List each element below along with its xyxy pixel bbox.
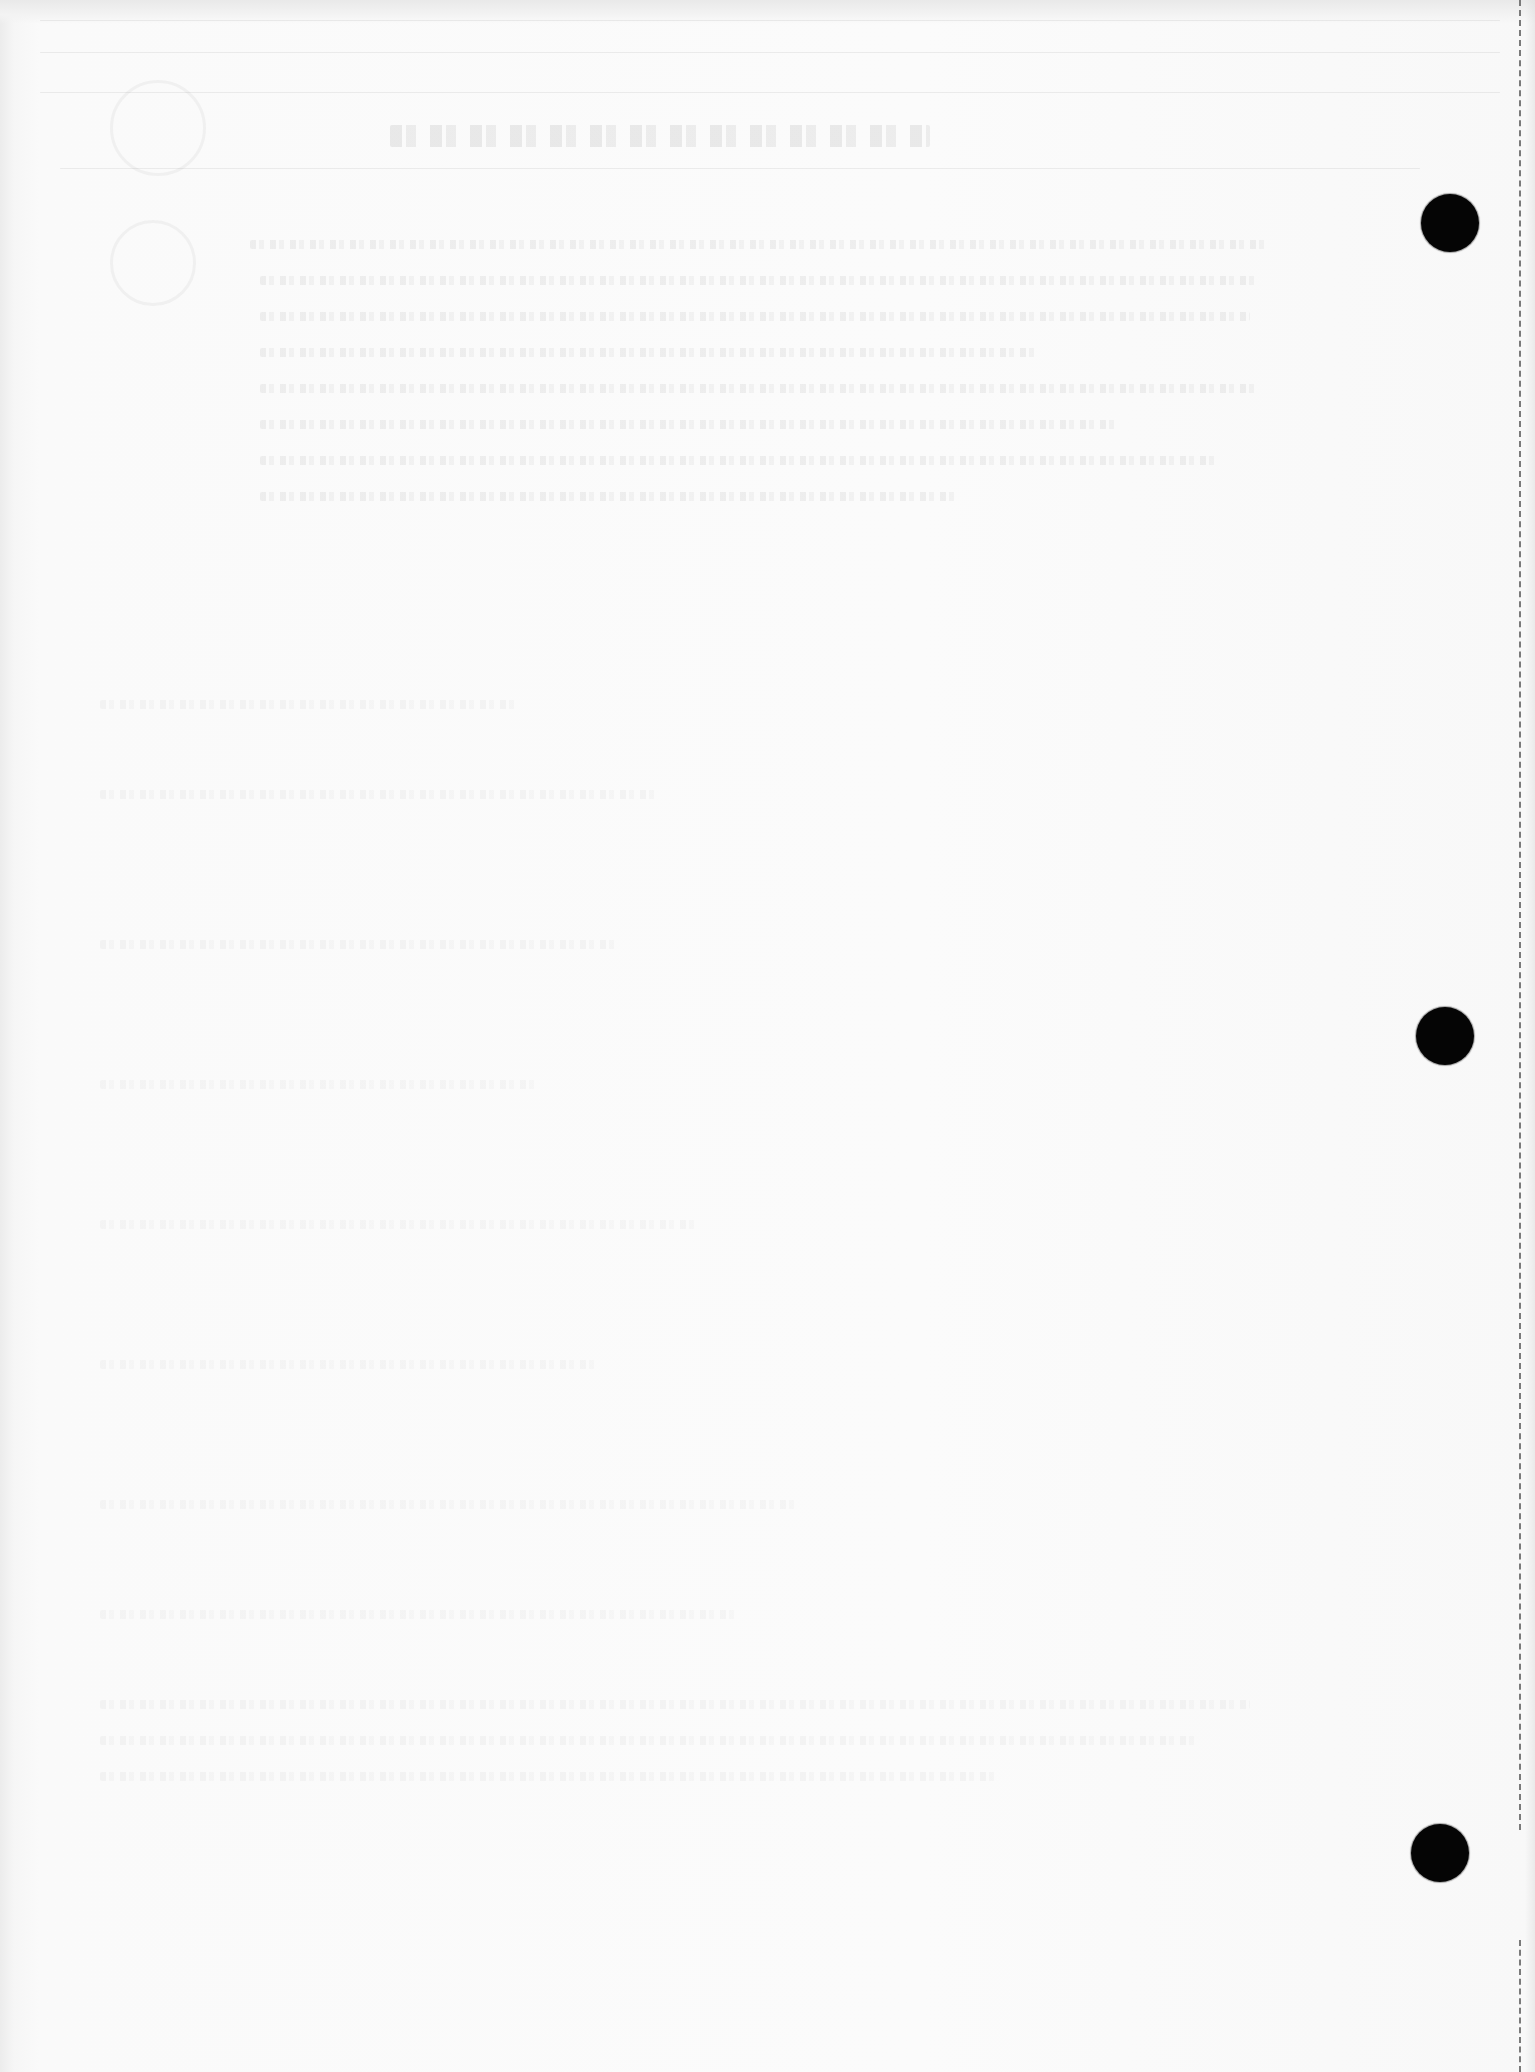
bleed-text-line bbox=[260, 456, 1220, 465]
bleed-text-line bbox=[100, 1500, 800, 1509]
bleed-rule bbox=[40, 52, 1500, 53]
bleed-rule bbox=[40, 20, 1500, 21]
bleed-text-line bbox=[250, 240, 1270, 249]
bleed-text-line bbox=[100, 940, 620, 949]
bleed-text-line bbox=[100, 1700, 1250, 1709]
bleed-rule bbox=[40, 92, 1500, 93]
punch-hole-bottom bbox=[1411, 1824, 1469, 1882]
punch-hole-middle bbox=[1416, 1007, 1474, 1065]
bleed-text-line bbox=[100, 1080, 540, 1089]
bleed-text-line bbox=[260, 348, 1040, 357]
bleed-text-line bbox=[260, 492, 960, 501]
scanned-page bbox=[0, 0, 1535, 2072]
bleed-text-line bbox=[100, 1772, 1000, 1781]
bleed-text-line bbox=[100, 1360, 600, 1369]
bleed-heading bbox=[390, 125, 930, 147]
bleed-text-line bbox=[100, 1220, 700, 1229]
bleed-text-line bbox=[260, 384, 1260, 393]
bleed-text-line bbox=[100, 1610, 740, 1619]
bleed-logo-ghost bbox=[110, 220, 196, 306]
bleed-text-line bbox=[100, 1736, 1200, 1745]
bleed-text-line bbox=[100, 790, 660, 799]
bleed-text-line bbox=[260, 276, 1260, 285]
page-edge-shadow bbox=[1525, 0, 1535, 2072]
bleed-logo-ghost bbox=[110, 80, 206, 176]
bleed-text-line bbox=[100, 700, 520, 709]
bleed-text-line bbox=[260, 420, 1120, 429]
punch-hole-top bbox=[1421, 194, 1479, 252]
perforation-line-lower bbox=[1519, 1940, 1524, 2072]
perforation-line-upper bbox=[1519, 0, 1524, 1830]
bleed-rule bbox=[60, 168, 1420, 169]
bleed-through-text bbox=[0, 0, 1535, 2072]
bleed-text-line bbox=[260, 312, 1250, 321]
